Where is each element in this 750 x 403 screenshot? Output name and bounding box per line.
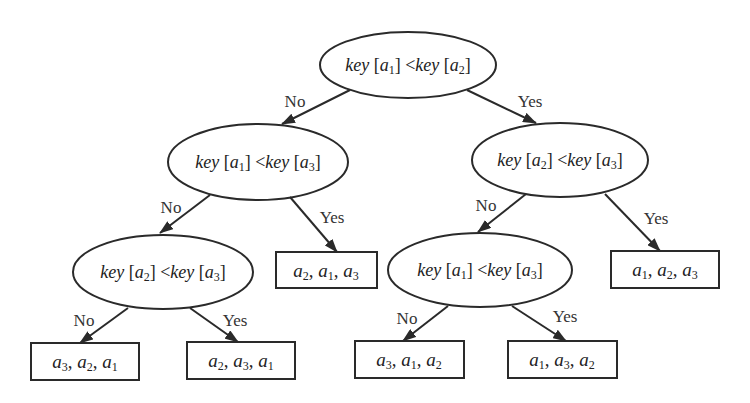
var-a: a bbox=[233, 350, 243, 371]
separator: , bbox=[334, 260, 344, 281]
separator: , bbox=[309, 260, 319, 281]
var-a: a bbox=[258, 350, 268, 371]
key-text: key bbox=[487, 260, 511, 280]
var-a: a bbox=[318, 260, 328, 281]
key-text: key bbox=[417, 260, 441, 280]
subscript: 1 bbox=[239, 160, 245, 174]
var-a: a bbox=[343, 260, 353, 281]
var-a: a bbox=[450, 55, 459, 75]
var-a: a bbox=[102, 351, 112, 372]
var-a: a bbox=[208, 350, 218, 371]
subscript: 1 bbox=[461, 268, 467, 282]
leaf-rll-label: a3, a1, a2 bbox=[376, 350, 442, 371]
key-text: key bbox=[195, 152, 219, 172]
key-text: key bbox=[265, 152, 289, 172]
less-than: < bbox=[160, 262, 170, 282]
separator: , bbox=[570, 349, 580, 370]
key-text: key bbox=[497, 150, 521, 170]
node-right-left-label: key [a1] <key [a3] bbox=[417, 261, 543, 281]
subscript: 3 bbox=[214, 270, 220, 284]
key-text: key bbox=[345, 55, 369, 75]
subscript: 1 bbox=[112, 360, 118, 374]
subscript: 1 bbox=[389, 63, 395, 77]
edge-label-root-no: No bbox=[285, 93, 306, 110]
key-text: key bbox=[567, 150, 591, 170]
var-a: a bbox=[554, 349, 564, 370]
subscript: 3 bbox=[611, 158, 617, 172]
var-a: a bbox=[529, 349, 539, 370]
node-right-label: key [a2] <key [a3] bbox=[497, 151, 623, 171]
separator: , bbox=[93, 351, 103, 372]
edge-label-right-left-yes: Yes bbox=[553, 308, 578, 325]
leaf-rr-label: a1, a2, a3 bbox=[632, 260, 698, 281]
edge-label-right-yes: Yes bbox=[644, 210, 669, 227]
var-a: a bbox=[682, 259, 692, 280]
subscript: 3 bbox=[309, 160, 315, 174]
key-text: key bbox=[100, 262, 124, 282]
decision-tree-diagram: key [a1] <key [a2] key [a1] <key [a3] ke… bbox=[0, 0, 750, 403]
var-a: a bbox=[77, 351, 87, 372]
var-a: a bbox=[376, 349, 386, 370]
subscript: 2 bbox=[144, 270, 150, 284]
var-a: a bbox=[205, 262, 214, 282]
edge-label-left-left-no: No bbox=[74, 312, 95, 329]
subscript: 2 bbox=[459, 63, 465, 77]
leaf-lr-label: a2, a1, a3 bbox=[293, 261, 359, 282]
node-left-label: key [a1] <key [a3] bbox=[195, 153, 321, 173]
leaf-rlr-label: a1, a3, a2 bbox=[529, 350, 595, 371]
subscript: 3 bbox=[531, 268, 537, 282]
subscript: 2 bbox=[436, 358, 442, 372]
less-than: < bbox=[477, 260, 487, 280]
separator: , bbox=[673, 259, 683, 280]
leaf-lll-label: a3, a2, a1 bbox=[52, 352, 118, 373]
leaf-llr-label: a2, a3, a1 bbox=[208, 351, 274, 372]
separator: , bbox=[648, 259, 658, 280]
var-a: a bbox=[602, 150, 611, 170]
separator: , bbox=[417, 349, 427, 370]
separator: , bbox=[224, 350, 234, 371]
var-a: a bbox=[52, 351, 62, 372]
var-a: a bbox=[426, 349, 436, 370]
separator: , bbox=[545, 349, 555, 370]
key-text: key bbox=[415, 55, 439, 75]
var-a: a bbox=[300, 152, 309, 172]
edge-label-right-no: No bbox=[476, 197, 497, 214]
var-a: a bbox=[293, 260, 303, 281]
less-than: < bbox=[405, 55, 415, 75]
edge-label-right-left-no: No bbox=[397, 310, 418, 327]
subscript: 1 bbox=[268, 359, 274, 373]
less-than: < bbox=[557, 150, 567, 170]
var-a: a bbox=[657, 259, 667, 280]
var-a: a bbox=[579, 349, 589, 370]
edge-label-root-yes: Yes bbox=[518, 93, 543, 110]
var-a: a bbox=[632, 259, 642, 280]
node-root-label: key [a1] <key [a2] bbox=[345, 56, 471, 76]
edge-label-left-left-yes: Yes bbox=[223, 312, 248, 329]
subscript: 2 bbox=[589, 358, 595, 372]
edge-label-left-no: No bbox=[161, 199, 182, 216]
less-than: < bbox=[255, 152, 265, 172]
separator: , bbox=[68, 351, 78, 372]
subscript: 2 bbox=[541, 158, 547, 172]
key-text: key bbox=[170, 262, 194, 282]
var-a: a bbox=[522, 260, 531, 280]
node-left-left-label: key [a2] <key [a3] bbox=[100, 263, 226, 283]
var-a: a bbox=[401, 349, 411, 370]
separator: , bbox=[249, 350, 259, 371]
subscript: 3 bbox=[692, 268, 698, 282]
edge-label-left-yes: Yes bbox=[320, 209, 345, 226]
separator: , bbox=[392, 349, 402, 370]
subscript: 3 bbox=[353, 269, 359, 283]
